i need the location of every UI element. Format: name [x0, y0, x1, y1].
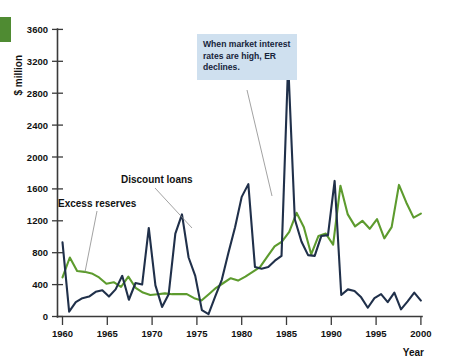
x-tick-label: 1990: [321, 328, 342, 339]
y-axis-title: $ million: [13, 55, 24, 96]
y-tick-label: 2800: [27, 88, 48, 99]
leader-line-discount-loans: [155, 188, 192, 228]
leader-line-annotation: [247, 90, 272, 196]
annotation-line-2: rates are high, ER: [203, 51, 291, 63]
x-tick-label: 1980: [231, 328, 252, 339]
x-tick-label: 1975: [186, 328, 208, 339]
y-tick-label: 800: [32, 247, 48, 258]
leader-line-excess-reserves: [85, 211, 97, 272]
chart-figure: $ million 0 400 800 1200 1600 2000 2400: [0, 0, 465, 362]
x-axis-title: Year: [403, 347, 424, 358]
annotation-line-3: declines.: [203, 62, 291, 74]
x-tick-label: 1970: [142, 328, 163, 339]
annotation-line-1: When market interest: [203, 39, 291, 51]
y-tick-label: 1600: [27, 183, 48, 194]
y-tick-label: 400: [32, 279, 48, 290]
y-tick-label: 0: [43, 311, 48, 322]
x-tick-label: 1985: [276, 328, 298, 339]
x-tick-label: 2000: [410, 328, 431, 339]
series-label-discount-loans: Discount loans: [121, 174, 193, 185]
y-tick-label: 2000: [27, 152, 48, 163]
series-label-excess-reserves: Excess reserves: [58, 198, 137, 209]
annotation-callout: When market interest rates are high, ER …: [197, 34, 297, 80]
y-tick-label: 3200: [27, 56, 48, 67]
y-tick-label: 2400: [27, 120, 48, 131]
x-axis-ticks: [63, 317, 421, 326]
y-axis-tick-labels: 0 400 800 1200 1600 2000 2400 2800 3200 …: [27, 24, 48, 322]
x-tick-label: 1960: [52, 328, 73, 339]
x-axis-tick-labels: 1960 1965 1970 1975 1980 1985 1990 1995 …: [52, 328, 432, 339]
x-tick-label: 1995: [366, 328, 388, 339]
y-tick-label: 3600: [27, 24, 48, 35]
x-tick-label: 1965: [97, 328, 119, 339]
y-tick-label: 1200: [27, 215, 48, 226]
series-line-discount-loans: [63, 63, 421, 314]
